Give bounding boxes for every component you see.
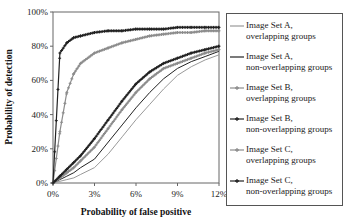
- x-tick-label: 6%: [130, 189, 143, 199]
- x-tick-label: 0%: [47, 189, 60, 199]
- legend-label: Image Set B,overlapping groups: [244, 82, 316, 103]
- legend-label-line: overlapping groups: [246, 31, 316, 42]
- legend-item: Image Set B,non-overlapping groups: [230, 113, 342, 134]
- legend-label-line: Image Set C,: [246, 144, 316, 155]
- y-tick-label: 0%: [36, 178, 49, 188]
- legend-item: Image Set B,overlapping groups: [230, 82, 342, 103]
- legend-swatch-icon: [230, 21, 244, 31]
- legend-label: Image Set A,non-overlapping groups: [244, 51, 332, 72]
- legend-label-line: overlapping groups: [246, 155, 316, 166]
- y-tick-label: 60%: [32, 75, 49, 85]
- legend-label-line: overlapping groups: [246, 93, 316, 104]
- legend-label: Image Set B,non-overlapping groups: [244, 113, 332, 134]
- legend-label-line: non-overlapping groups: [246, 62, 332, 73]
- series-layer: [52, 26, 221, 185]
- legend-swatch-icon: [230, 145, 244, 155]
- x-axis-title: Probability of false positive: [81, 207, 191, 217]
- legend-swatch-icon: [230, 176, 244, 186]
- legend-item: Image Set A,overlapping groups: [230, 20, 342, 41]
- legend-item: Image Set A,non-overlapping groups: [230, 51, 342, 72]
- legend-label-line: Image Set C,: [246, 175, 332, 186]
- y-tick-label: 20%: [32, 144, 49, 154]
- legend-item: Image Set C,non-overlapping groups: [230, 175, 342, 196]
- y-axis-title: Probability of detection: [4, 49, 14, 145]
- legend-label-line: Image Set B,: [246, 113, 332, 124]
- y-tick-label: 100%: [27, 7, 49, 17]
- x-axis-ticks: 0%3%6%9%12%: [47, 183, 228, 199]
- y-axis-ticks: 0%20%40%60%80%100%: [27, 7, 53, 188]
- legend-label-line: Image Set B,: [246, 82, 316, 93]
- y-tick-label: 80%: [32, 41, 49, 51]
- legend-label-line: Image Set A,: [246, 20, 316, 31]
- legend-swatch-icon: [230, 83, 244, 93]
- legend-label-line: Image Set A,: [246, 51, 332, 62]
- y-tick-label: 40%: [32, 110, 49, 120]
- legend-swatch-icon: [230, 114, 244, 124]
- x-tick-label: 9%: [172, 189, 185, 199]
- legend-swatch-icon: [230, 52, 244, 62]
- legend-label-line: non-overlapping groups: [246, 124, 332, 135]
- legend-label: Image Set C,non-overlapping groups: [244, 175, 332, 196]
- legend-label: Image Set A,overlapping groups: [244, 20, 316, 41]
- legend-label: Image Set C,overlapping groups: [244, 144, 316, 165]
- legend: Image Set A,overlapping groupsImage Set …: [226, 13, 343, 206]
- legend-item: Image Set C,overlapping groups: [230, 144, 342, 165]
- legend-label-line: non-overlapping groups: [246, 186, 332, 197]
- x-tick-label: 3%: [89, 189, 102, 199]
